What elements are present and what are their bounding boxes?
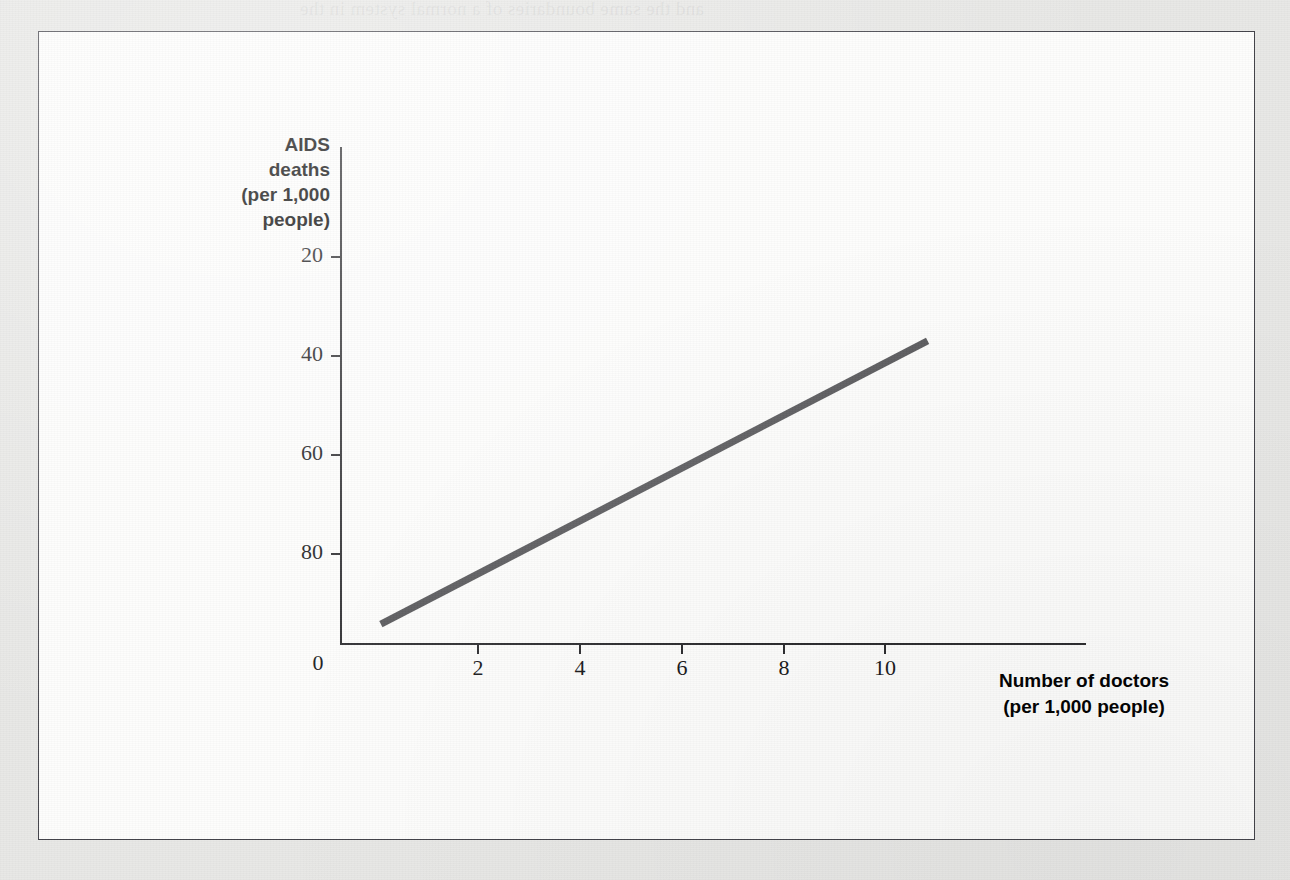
data-line-0 <box>381 341 928 624</box>
plot-area: AIDS deaths (per 1,000 people) Number of… <box>39 32 1254 839</box>
data-series-layer <box>39 32 1256 841</box>
figure-panel: AIDS deaths (per 1,000 people) Number of… <box>38 31 1255 840</box>
bleed-through-line-1: and the same boundaries of a normal syst… <box>64 0 704 21</box>
